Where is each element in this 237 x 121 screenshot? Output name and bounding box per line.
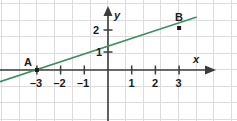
point-b-label: B	[175, 12, 183, 23]
x-tick-label-neg1: –1	[77, 78, 89, 89]
x-tick-label-1: 1	[129, 78, 135, 89]
x-tick-label-3: 3	[176, 78, 182, 89]
x-tick-label-neg2: –2	[54, 78, 66, 89]
coordinate-plane-figure: –3 –2 –1 1 2 3 1 2 x y A B	[0, 0, 237, 121]
y-tick-label-2: 2	[93, 25, 99, 36]
point-a-label: A	[24, 57, 32, 68]
x-axis-label: x	[193, 54, 199, 65]
y-axis-label: y	[114, 10, 120, 21]
point-b-marker	[177, 26, 181, 30]
y-tick-label-1: 1	[96, 47, 102, 58]
x-tick-label-2: 2	[152, 78, 158, 89]
x-tick-label-neg3: –3	[30, 78, 42, 89]
point-a-marker	[35, 68, 39, 72]
